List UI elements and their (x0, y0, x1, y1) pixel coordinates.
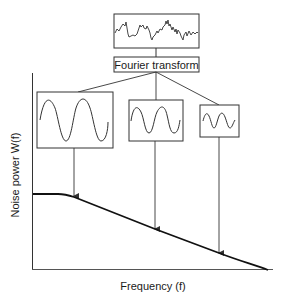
component-box-high (200, 105, 239, 137)
noise-power-curve (33, 194, 268, 270)
noise-signal-box (114, 14, 199, 48)
component-box-low (37, 92, 113, 148)
diagram-canvas: Fourier transform Noise power W(f) Frequ… (0, 0, 289, 305)
fourier-transform-label: Fourier transform (114, 59, 198, 71)
fourier-transform-box: Fourier transform (114, 57, 199, 72)
y-axis-label: Noise power W(f) (9, 133, 21, 218)
component-box-mid (129, 100, 183, 141)
spectrum-arrows (74, 137, 219, 253)
x-axis-label: Frequency (f) (120, 280, 185, 292)
